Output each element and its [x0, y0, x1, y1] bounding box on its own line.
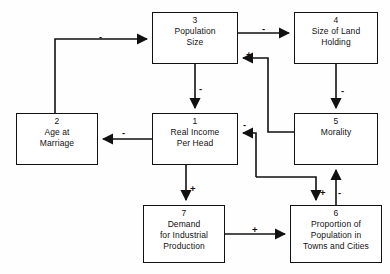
node-label: Age at Marriage	[38, 127, 76, 149]
edge-sign-population-to-land: -	[262, 24, 265, 33]
node-age-at-marriage[interactable]: 2 Age at Marriage	[16, 113, 98, 165]
edge-sign-income-to-age: -	[122, 128, 125, 137]
edge-sign-morality-to-population: +	[246, 50, 252, 59]
edge-sign-trunk-into-urban: +	[320, 188, 326, 197]
node-number: 3	[193, 15, 198, 25]
edge-age-at-marriage-to-population-size	[55, 39, 147, 113]
edge-sign-population-to-income: -	[199, 84, 202, 93]
node-label: Real Income Per Head	[169, 127, 222, 149]
node-number: 5	[334, 116, 339, 126]
node-real-income-per-head[interactable]: 1 Real Income Per Head	[152, 113, 238, 165]
node-population-size[interactable]: 3 Population Size	[152, 12, 238, 64]
edge-sign-urban-to-income: -	[243, 120, 246, 129]
node-label: Morality	[319, 127, 354, 138]
node-number: 1	[193, 116, 198, 126]
node-number: 7	[182, 208, 187, 218]
node-label: Demand for Industrial Production	[158, 219, 210, 252]
node-demand-for-industrial-production[interactable]: 7 Demand for Industrial Production	[143, 205, 225, 263]
node-size-of-land-holding[interactable]: 4 Size of Land Holding	[294, 12, 378, 64]
edge-sign-age-to-population: -	[99, 32, 102, 41]
node-morality[interactable]: 5 Morality	[294, 113, 378, 165]
edge-sign-land-to-morality: -	[341, 86, 344, 95]
edge-trunk-into-urban-proportion	[256, 177, 316, 200]
node-label: Population Size	[172, 26, 217, 48]
edge-urban-proportion-to-real-income	[243, 133, 256, 177]
edge-sign-demand-to-urban: +	[252, 225, 258, 234]
edge-morality-to-population-size	[243, 58, 294, 132]
edge-sign-urban-to-morality: -	[338, 188, 341, 197]
causal-loop-diagram: 3 Population Size 4 Size of Land Holding…	[0, 0, 390, 274]
node-proportion-population-towns-cities[interactable]: 6 Proportion of Population in Towns and …	[290, 205, 382, 263]
node-label: Proportion of Population in Towns and Ci…	[301, 219, 371, 252]
node-number: 2	[55, 116, 60, 126]
node-number: 6	[334, 208, 339, 218]
node-number: 4	[334, 15, 339, 25]
node-label: Size of Land Holding	[310, 26, 362, 48]
edge-sign-income-to-demand: +	[190, 184, 196, 193]
